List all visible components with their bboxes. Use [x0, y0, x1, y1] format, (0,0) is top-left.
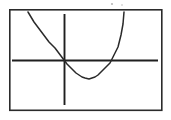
- parabola-graph-figure: [0, 0, 171, 120]
- scan-speck-icon: [121, 4, 123, 6]
- scan-speck-icon: [111, 3, 113, 5]
- parabola-curve: [28, 12, 124, 79]
- figure-screenshot: [0, 0, 171, 120]
